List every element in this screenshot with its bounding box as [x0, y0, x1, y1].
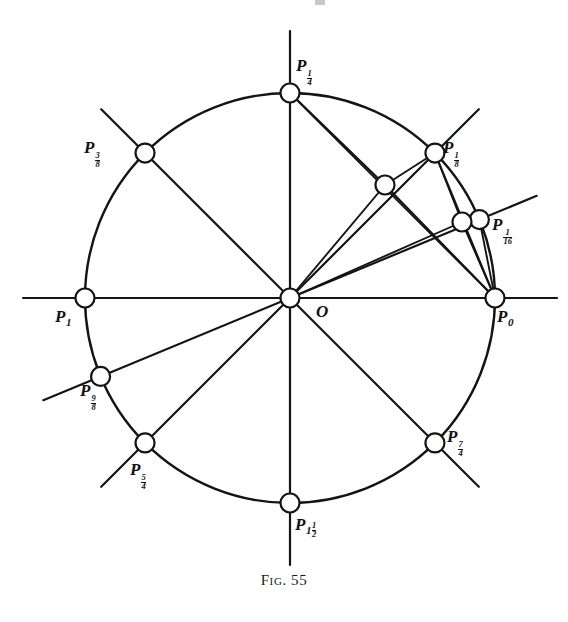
label-base-letter: P [296, 56, 306, 75]
label-base-letter: P [295, 515, 305, 534]
point-label-P7_4: P74 [447, 428, 463, 456]
point-label-P1_16: P116 [492, 216, 512, 244]
point-node-P1_16 [470, 210, 489, 229]
label-subscript-fraction: 116 [503, 229, 513, 246]
label-base-letter: P [80, 381, 90, 400]
point-node-P3_8 [136, 144, 155, 163]
point-label-P5_4: P54 [130, 461, 146, 489]
label-base-letter: P [443, 138, 453, 157]
chord-P0-M2 [462, 222, 495, 298]
point-node-P3_2 [281, 494, 300, 513]
point-label-P3_2: P112 [295, 516, 316, 539]
figure-caption: Fig. 55 [0, 572, 568, 589]
label-subscript-fraction: 38 [95, 152, 100, 169]
point-node-P0 [486, 289, 505, 308]
label-subscript: 1 [66, 316, 72, 328]
point-label-P1_4: P14 [296, 57, 312, 85]
label-subscript-fraction: 98 [91, 395, 96, 412]
geometry-diagram [0, 0, 568, 622]
label-subscript-fraction: 54 [141, 474, 146, 491]
point-label-P3_8: P38 [84, 139, 100, 167]
chord-P0-M1 [385, 185, 495, 298]
generated-geometry [23, 31, 557, 565]
label-base-letter: P [130, 460, 140, 479]
label-subscript-fraction: 14 [307, 70, 312, 87]
point-node-P5_4 [136, 433, 155, 452]
point-label-P1: P1 [55, 308, 71, 328]
point-node-M2 [453, 213, 472, 232]
label-subscript: 0 [508, 316, 514, 328]
point-node-P1_8 [425, 144, 444, 163]
label-subscript-mixed-number: 112 [306, 522, 316, 539]
point-node-P1_4 [281, 84, 300, 103]
label-base-letter: P [497, 307, 507, 326]
point-label-P0: P0 [497, 308, 513, 328]
radius-O-M1 [290, 185, 385, 298]
radius-O-M2 [290, 222, 462, 298]
chord-P1_4-M1 [290, 93, 385, 185]
figure-container: P0 P116 P18 P14 P38 P1 P98 P54 P112 P74 … [0, 0, 568, 622]
point-label-P9_8: P98 [80, 382, 96, 410]
origin-label: O [316, 302, 328, 322]
label-subscript-fraction: 74 [458, 441, 463, 458]
label-base-letter: P [55, 307, 65, 326]
point-node-M1 [376, 176, 395, 195]
point-node-P7_4 [425, 433, 444, 452]
label-base-letter: P [84, 138, 94, 157]
point-label-P1_8: P18 [443, 139, 459, 167]
label-base-letter: P [447, 427, 457, 446]
point-node-P1 [76, 289, 95, 308]
label-base-letter: P [492, 215, 502, 234]
point-node-origin [281, 289, 300, 308]
label-subscript-fraction: 18 [454, 152, 459, 169]
